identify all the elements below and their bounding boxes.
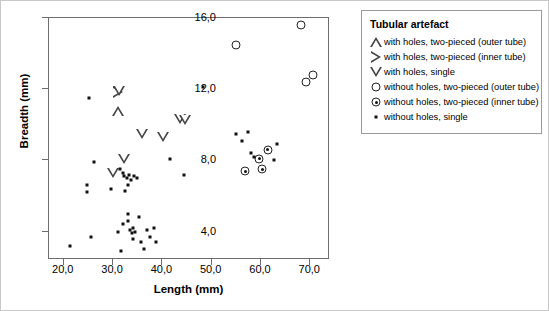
point-square xyxy=(121,223,124,226)
point-circle xyxy=(301,78,310,87)
legend-items: with holes, two-pieced (outer tube)with … xyxy=(369,35,535,124)
point-square xyxy=(127,173,130,176)
point-square xyxy=(149,235,152,238)
point-square xyxy=(250,152,253,155)
point-square xyxy=(272,159,275,162)
y-axis-tick-mark xyxy=(42,17,48,18)
circle-icon-glyph xyxy=(372,83,381,92)
point-square xyxy=(143,248,146,251)
point-circle-dot xyxy=(255,154,264,163)
legend-item-label: without holes, two-pieced (outer tube) xyxy=(384,82,539,92)
point-square xyxy=(127,219,130,222)
point-square xyxy=(120,250,123,253)
square-icon-glyph xyxy=(375,116,378,119)
point-square xyxy=(139,241,142,244)
point-square xyxy=(169,157,172,160)
legend-item: with holes, two-pieced (outer tube) xyxy=(369,35,535,49)
point-square xyxy=(85,191,88,194)
legend-title: Tubular artefact xyxy=(370,18,535,30)
point-square xyxy=(133,230,136,233)
x-axis-tick-mark xyxy=(211,259,212,265)
point-square xyxy=(136,177,139,180)
point-square xyxy=(145,228,148,231)
legend-item: without holes, two-pieced (inner tube) xyxy=(369,95,535,109)
triangle-up-icon-glyph xyxy=(370,37,382,47)
y-axis-tick-mark xyxy=(42,159,48,160)
point-square xyxy=(183,173,186,176)
point-triangle-down xyxy=(107,168,119,178)
point-square xyxy=(90,235,93,238)
point-square xyxy=(241,139,244,142)
point-circle xyxy=(232,40,241,49)
data-points-layer xyxy=(49,18,328,258)
legend-item: without holes, two-pieced (outer tube) xyxy=(369,80,535,94)
point-square xyxy=(125,177,128,180)
point-square xyxy=(126,212,129,215)
legend: Tubular artefact with holes, two-pieced … xyxy=(361,10,542,134)
legend-item: with holes, single xyxy=(369,65,535,79)
point-circle-dot xyxy=(241,167,250,176)
x-axis-tick-mark xyxy=(260,259,261,265)
triangle-down-icon-glyph xyxy=(370,67,382,77)
point-square xyxy=(117,230,120,233)
point-triangle-down xyxy=(179,115,191,125)
point-circle xyxy=(309,70,318,79)
plot-area xyxy=(48,17,329,259)
triangle-up-icon xyxy=(369,35,384,49)
circle-dot-icon xyxy=(369,95,384,109)
x-axis-tick-mark xyxy=(63,259,64,265)
point-square xyxy=(275,143,278,146)
point-square xyxy=(137,216,140,219)
point-square xyxy=(124,189,127,192)
point-square xyxy=(87,97,90,100)
point-triangle-down xyxy=(118,154,130,164)
point-square xyxy=(93,161,96,164)
legend-item-label: with holes, two-pieced (inner tube) xyxy=(384,52,526,62)
legend-item: without holes, single xyxy=(369,110,535,124)
scatter-plot-figure: Breadth (mm) Length (mm) Tubular artefac… xyxy=(0,0,549,311)
point-square xyxy=(129,178,132,181)
x-axis-tick-mark xyxy=(112,259,113,265)
legend-item: with holes, two-pieced (inner tube) xyxy=(369,50,535,64)
y-axis-tick-label: 16,0 xyxy=(195,11,216,23)
y-axis-tick-label: 12,0 xyxy=(195,82,216,94)
point-square xyxy=(127,184,130,187)
y-axis-tick-mark xyxy=(42,88,48,89)
x-axis-tick-mark xyxy=(309,259,310,265)
point-circle-dot xyxy=(258,165,267,174)
point-square xyxy=(246,130,249,133)
point-square xyxy=(253,155,256,158)
point-square xyxy=(152,227,155,230)
point-square xyxy=(121,171,124,174)
legend-item-label: with holes, two-pieced (outer tube) xyxy=(384,37,526,47)
point-square xyxy=(154,241,157,244)
point-circle-dot xyxy=(263,145,272,154)
circle-icon xyxy=(369,80,384,94)
x-axis-label: Length (mm) xyxy=(48,283,329,295)
x-axis-tick-mark xyxy=(161,259,162,265)
y-axis-label: Breadth (mm) xyxy=(18,51,30,171)
point-square xyxy=(110,187,113,190)
point-triangle-down xyxy=(157,132,169,142)
point-triangle-up xyxy=(112,106,124,116)
y-axis-tick-label: 8,0 xyxy=(201,153,216,165)
point-square xyxy=(69,244,72,247)
legend-item-label: with holes, single xyxy=(384,67,455,77)
triangle-right-icon-glyph xyxy=(371,51,381,63)
circle-dot-icon-glyph xyxy=(372,98,381,107)
point-triangle-down xyxy=(136,129,148,139)
y-axis-tick-mark xyxy=(42,231,48,232)
legend-item-label: without holes, two-pieced (inner tube) xyxy=(384,97,539,107)
y-axis-tick-label: 4,0 xyxy=(201,225,216,237)
triangle-down-icon xyxy=(369,65,384,79)
point-square xyxy=(131,237,134,240)
legend-item-label: without holes, single xyxy=(384,112,468,122)
triangle-right-icon xyxy=(369,50,384,64)
point-square xyxy=(85,184,88,187)
point-circle xyxy=(297,21,306,30)
square-icon xyxy=(369,110,384,124)
point-triangle-down xyxy=(113,86,125,96)
point-square xyxy=(234,132,237,135)
